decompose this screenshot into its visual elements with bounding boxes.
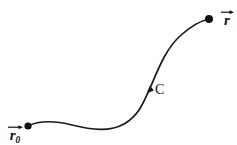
r0-subscript: 0 bbox=[16, 135, 21, 145]
r-vector-label: r bbox=[220, 9, 234, 28]
r-vector-stack: r bbox=[220, 9, 234, 28]
end-point-dot bbox=[205, 15, 213, 23]
start-point-dot bbox=[24, 122, 31, 129]
diagram-canvas bbox=[0, 0, 237, 145]
r-label-text: r bbox=[220, 13, 234, 28]
curve-label-c: C bbox=[155, 83, 164, 97]
vector-arrow-icon bbox=[7, 124, 23, 128]
r0-vector-stack: r0 bbox=[7, 124, 23, 145]
r0-vector-label: r0 bbox=[7, 124, 23, 145]
vector-arrow-icon bbox=[220, 9, 234, 13]
vector-path-diagram: r0 r C bbox=[0, 0, 237, 145]
r0-label-text: r0 bbox=[7, 128, 23, 145]
